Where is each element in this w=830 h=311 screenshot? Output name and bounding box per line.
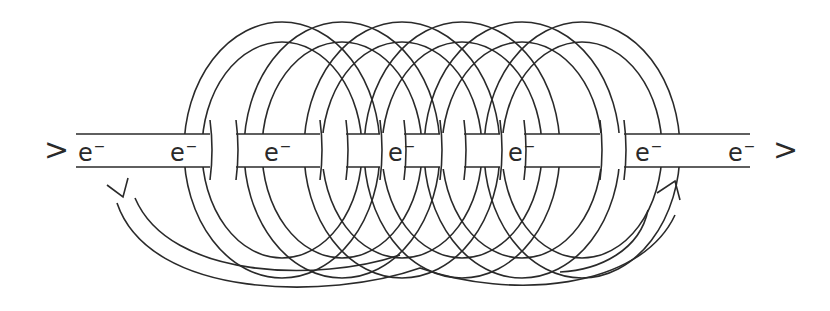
arrowhead-left-icon xyxy=(107,178,128,197)
electron-label: e− xyxy=(728,139,756,165)
electron-label: e− xyxy=(78,139,106,165)
electron-label: e− xyxy=(170,139,198,165)
exit-chevron-icon: > xyxy=(773,135,798,165)
entry-chevron-icon: > xyxy=(44,135,69,165)
electron-label: e− xyxy=(508,139,536,165)
electron-label: e− xyxy=(264,139,292,165)
arrowhead-right-icon xyxy=(657,181,680,200)
electron-label: e− xyxy=(635,139,663,165)
electron-label: e− xyxy=(388,139,416,165)
